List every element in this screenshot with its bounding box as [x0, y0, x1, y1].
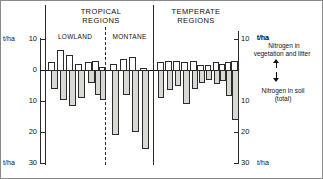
bar-soil [183, 70, 190, 104]
bar-soil [206, 70, 212, 80]
bar-soil [123, 70, 130, 95]
bar-soil [232, 70, 239, 120]
legend-soil-line2: (total) [247, 95, 319, 103]
legend-vegetation-line1: Nitrogen in [249, 42, 319, 50]
arrow-down-icon [273, 78, 279, 82]
bar-soil [167, 70, 173, 90]
left-axis-unit-bottom: t/ha [3, 159, 15, 167]
bar-soil [199, 70, 205, 83]
subheader-montane: MONTANE [107, 33, 152, 41]
left-tick-label-20-below: 20 [22, 128, 37, 136]
bar-soil [78, 70, 85, 98]
bar-soil [132, 70, 139, 132]
legend-unit: t/ha [257, 34, 269, 42]
left-tick-label-10-above: 10 [22, 35, 37, 43]
header-temperate-line2: REGIONS [156, 16, 236, 25]
bar-soil [88, 70, 95, 83]
bar-soil [192, 70, 198, 89]
header-tropical-line2: REGIONS [51, 16, 151, 25]
left-tick-label-10-below: 10 [22, 97, 37, 105]
nitrogen-stock-chart: 10 0 10 20 30 t/ha t/ha 10 10 20 30 t/ha… [0, 0, 323, 179]
header-tropical-line1: TROPICAL [51, 7, 151, 16]
bar-soil [158, 70, 164, 98]
left-tick-label-30-below: 30 [22, 159, 37, 167]
left-axis-unit-top: t/ha [3, 35, 15, 43]
right-tick-label-30-below: 30 [241, 159, 253, 167]
left-tick-label-0: 0 [22, 66, 37, 74]
arrow-stem-up [276, 62, 277, 68]
legend-soil-line1: Nitrogen in soil [247, 87, 319, 95]
bar-soil [142, 70, 149, 149]
bar-vegetation [57, 50, 64, 71]
divider-chart-left-edge [45, 5, 46, 165]
bar-soil [69, 70, 76, 106]
header-temperate-line1: TEMPERATE [156, 7, 236, 16]
legend-vegetation-line2: vegetation and litter [241, 50, 323, 58]
divider-tropical-temperate [153, 5, 154, 165]
bar-soil [60, 70, 67, 100]
bar-soil [175, 70, 181, 86]
right-tick-10-above [234, 39, 239, 40]
right-tick-20-below [234, 132, 239, 133]
bar-soil [51, 70, 58, 89]
bar-soil [100, 70, 106, 100]
bar-soil [112, 70, 119, 135]
bar-vegetation [129, 57, 136, 71]
right-axis-unit-bottom: t/ha [257, 159, 269, 167]
subheader-lowland: LOWLAND [47, 33, 103, 41]
right-tick-label-20-below: 20 [241, 128, 253, 136]
bar-vegetation [66, 55, 73, 71]
right-tick-30-below [234, 163, 239, 164]
